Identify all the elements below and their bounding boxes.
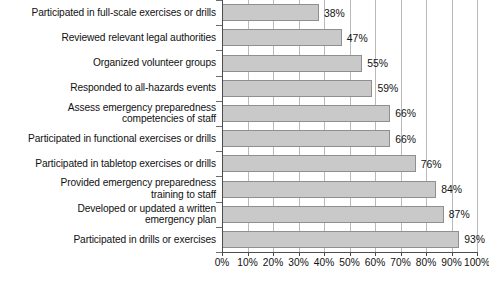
category-label: Provided emergency preparedness training… [0, 177, 216, 200]
bar-value-label: 93% [464, 234, 485, 245]
bar[interactable] [222, 231, 459, 248]
bar-value-label: 59% [377, 83, 398, 94]
x-axis-tick-label: 40% [314, 257, 334, 268]
y-axis-tick [216, 0, 222, 1]
y-axis-line [222, 0, 223, 252]
category-label: Organized volunteer groups [0, 57, 216, 69]
x-axis-tick [452, 252, 453, 256]
bar-row: 66% [222, 130, 477, 147]
bar-row: 66% [222, 105, 477, 122]
bar[interactable] [222, 80, 372, 97]
x-axis-tick-label: 100% [464, 257, 489, 268]
category-axis-labels: Participated in full-scale exercises or … [0, 0, 216, 252]
x-axis-tick-label: 80% [416, 257, 436, 268]
bar-row: 87% [222, 206, 477, 223]
category-label: Developed or updated a written emergency… [0, 203, 216, 226]
bar[interactable] [222, 29, 342, 46]
bar[interactable] [222, 155, 416, 172]
bar[interactable] [222, 206, 444, 223]
bar-value-label: 55% [367, 58, 388, 69]
x-axis-tick-label: 50% [339, 257, 359, 268]
x-axis-tick-label: 60% [365, 257, 385, 268]
bar-row: 76% [222, 155, 477, 172]
bar-row: 93% [222, 231, 477, 248]
y-axis-tick [216, 50, 222, 51]
x-axis-tick-label: 0% [215, 257, 230, 268]
bar-row: 55% [222, 55, 477, 72]
bar-value-label: 47% [347, 32, 368, 43]
x-axis-tick [299, 252, 300, 256]
y-axis-tick [216, 126, 222, 127]
category-label: Participated in full-scale exercises or … [0, 7, 216, 19]
bar-value-label: 66% [395, 133, 416, 144]
x-axis-tick [375, 252, 376, 256]
bar[interactable] [222, 4, 319, 21]
bar[interactable] [222, 55, 362, 72]
horizontal-bar-chart: Participated in full-scale exercises or … [0, 0, 489, 282]
bar-value-label: 66% [395, 108, 416, 119]
y-axis-tick [216, 176, 222, 177]
bar[interactable] [222, 130, 390, 147]
gridline [477, 0, 478, 252]
y-axis-tick [216, 151, 222, 152]
category-label: Assess emergency preparedness competenci… [0, 102, 216, 125]
bar-value-label: 87% [449, 209, 470, 220]
bar-row: 47% [222, 29, 477, 46]
x-axis-tick-label: 20% [263, 257, 283, 268]
x-axis-tick [401, 252, 402, 256]
category-label: Participated in tabletop exercises or dr… [0, 158, 216, 170]
x-axis-tick-label: 70% [390, 257, 410, 268]
category-label: Responded to all-hazards events [0, 82, 216, 94]
y-axis-tick [216, 76, 222, 77]
x-axis-tick [248, 252, 249, 256]
bar-row: 84% [222, 181, 477, 198]
plot-area: 38%47%55%59%66%66%76%84%87%93% [222, 0, 477, 252]
y-axis-tick [216, 202, 222, 203]
x-axis-tick [273, 252, 274, 256]
y-axis-tick [216, 227, 222, 228]
y-axis-tick [216, 252, 222, 253]
bar-row: 38% [222, 4, 477, 21]
y-axis-tick [216, 101, 222, 102]
x-axis-tick-label: 30% [288, 257, 308, 268]
bar-row: 59% [222, 80, 477, 97]
x-axis-tick-label: 10% [237, 257, 257, 268]
x-axis-tick [324, 252, 325, 256]
x-axis-tick-label: 90% [441, 257, 461, 268]
bar-value-label: 84% [441, 184, 462, 195]
y-axis-tick [216, 25, 222, 26]
category-label: Reviewed relevant legal authorities [0, 32, 216, 44]
category-label: Participated in functional exercises or … [0, 133, 216, 145]
category-label: Participated in drills or exercises [0, 234, 216, 246]
bar[interactable] [222, 105, 390, 122]
x-axis-tick-labels: 0%10%20%30%40%50%60%70%80%90%100% [222, 257, 482, 273]
x-axis-tick [477, 252, 478, 256]
bar-value-label: 76% [421, 158, 442, 169]
x-axis-tick [222, 252, 223, 256]
x-axis-tick [350, 252, 351, 256]
x-axis-tick [426, 252, 427, 256]
bar[interactable] [222, 181, 436, 198]
bar-value-label: 38% [324, 7, 345, 18]
